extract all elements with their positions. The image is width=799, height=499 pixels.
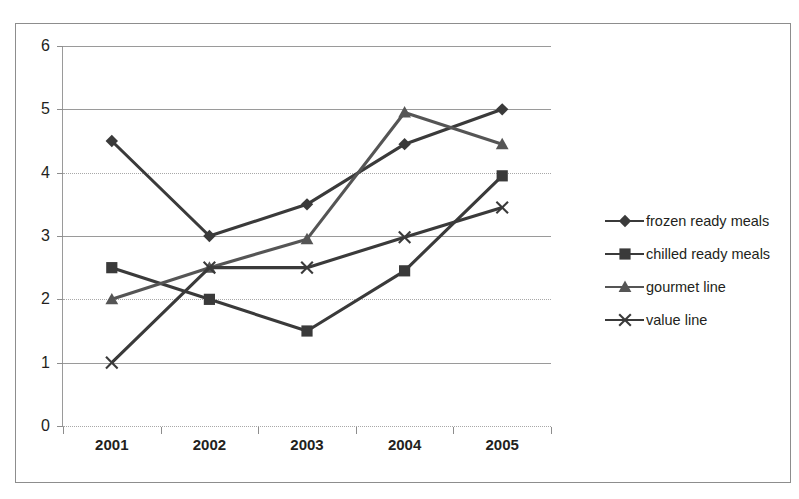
triangle-marker-icon — [605, 279, 644, 295]
chart-legend: frozen ready mealschilled ready mealsgou… — [605, 204, 790, 336]
x-tick-mark — [551, 427, 552, 434]
legend-item-label: gourmet line — [646, 279, 726, 295]
gridline-5 — [63, 109, 551, 110]
gridline-0 — [63, 426, 551, 427]
y-tick-mark — [57, 109, 63, 110]
x-tick-mark — [63, 427, 64, 434]
x-tick-mark — [161, 427, 162, 434]
y-axis-tick-label: 4 — [16, 164, 50, 182]
gridline-3 — [63, 236, 551, 237]
x-tick-mark — [356, 427, 357, 434]
chart-frame: 6543210 20012002200320042005 frozen read… — [15, 23, 791, 483]
y-axis-tick-label: 5 — [16, 100, 50, 118]
x-tick-mark — [258, 427, 259, 434]
square-marker-icon — [605, 246, 644, 262]
y-axis-tick-label: 1 — [16, 354, 50, 372]
legend-item-label: chilled ready meals — [646, 246, 770, 262]
gridline-2 — [63, 299, 551, 300]
legend-item[interactable]: frozen ready meals — [605, 204, 790, 237]
x-axis-tick-label: 2003 — [290, 436, 323, 453]
y-axis-tick-label: 2 — [16, 290, 50, 308]
series-chilled-ready-meals — [106, 170, 508, 336]
y-tick-mark — [57, 236, 63, 237]
y-axis-tick-label: 6 — [16, 37, 50, 55]
x-axis-tick-label: 2002 — [193, 436, 226, 453]
legend-item-label: value line — [646, 312, 707, 328]
x-axis-tick-label: 2004 — [388, 436, 421, 453]
gridline-6 — [63, 46, 551, 47]
x-axis-tick-label: 2001 — [95, 436, 128, 453]
diamond-marker-icon — [605, 213, 644, 229]
y-tick-mark — [57, 46, 63, 47]
y-axis-tick-label: 3 — [16, 227, 50, 245]
series-value-line — [106, 202, 508, 369]
x-tick-mark — [453, 427, 454, 434]
gridline-1 — [63, 363, 551, 364]
y-tick-mark — [57, 299, 63, 300]
y-axis-tick-label: 0 — [16, 417, 50, 435]
legend-item[interactable]: chilled ready meals — [605, 237, 790, 270]
y-tick-mark — [57, 363, 63, 364]
series-gourmet-line — [105, 106, 508, 304]
legend-item[interactable]: value line — [605, 303, 790, 336]
cross-marker-icon — [605, 312, 644, 328]
y-tick-mark — [57, 173, 63, 174]
legend-item-label: frozen ready meals — [646, 213, 769, 229]
x-axis-tick-label: 2005 — [486, 436, 519, 453]
gridline-4 — [63, 173, 551, 174]
legend-item[interactable]: gourmet line — [605, 270, 790, 303]
